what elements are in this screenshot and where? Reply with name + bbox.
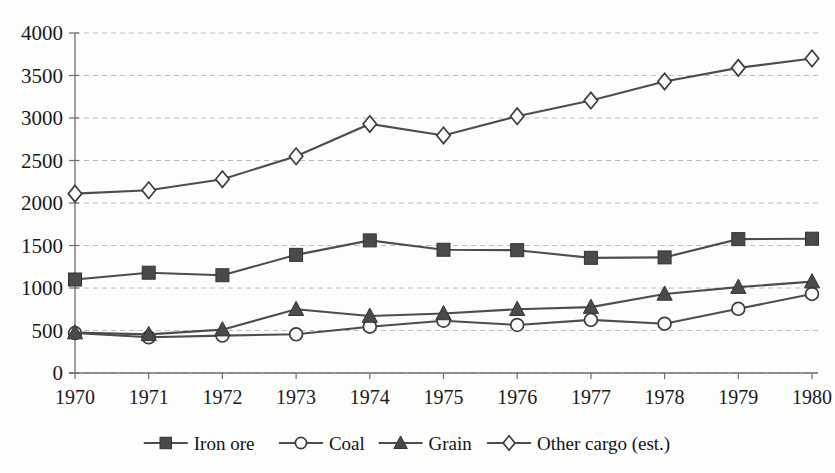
x-tick-label: 1972 — [202, 386, 242, 408]
x-tick-label: 1979 — [718, 386, 758, 408]
y-tick-label: 3500 — [21, 64, 63, 88]
y-tick-label: 0 — [53, 361, 64, 385]
legend-label: Iron ore — [194, 433, 255, 454]
y-tick-label: 2000 — [21, 191, 63, 215]
x-tick-label: 1980 — [792, 386, 832, 408]
x-tick-label: 1973 — [276, 386, 316, 408]
x-tick-label: 1970 — [55, 386, 95, 408]
data-point-marker — [584, 251, 597, 264]
data-point-marker — [216, 269, 229, 282]
y-tick-label: 3000 — [21, 106, 63, 130]
data-point-marker — [160, 437, 171, 448]
chart-background — [0, 0, 835, 473]
x-tick-label: 1971 — [129, 386, 169, 408]
y-tick-label: 500 — [32, 319, 64, 343]
data-point-marker — [732, 233, 745, 246]
data-point-marker — [363, 234, 376, 247]
x-tick-label: 1974 — [350, 386, 390, 408]
data-point-marker — [658, 251, 671, 264]
chart-canvas: 05001000150020002500300035004000 1970197… — [0, 0, 835, 473]
x-tick-label: 1976 — [497, 386, 537, 408]
legend-label: Grain — [429, 433, 473, 454]
data-point-marker — [806, 232, 819, 245]
data-point-marker — [69, 273, 82, 286]
data-point-marker — [142, 266, 155, 279]
y-tick-label: 1500 — [21, 234, 63, 258]
x-tick-label: 1975 — [424, 386, 464, 408]
data-point-marker — [732, 302, 745, 315]
data-point-marker — [511, 319, 524, 332]
y-tick-label: 4000 — [21, 21, 63, 45]
data-point-marker — [290, 328, 303, 341]
legend-label: Other cargo (est.) — [537, 433, 670, 455]
data-point-marker — [511, 244, 524, 257]
legend-label: Coal — [329, 433, 365, 454]
data-point-marker — [295, 437, 306, 448]
data-point-marker — [658, 317, 671, 330]
y-tick-label: 2500 — [21, 149, 63, 173]
data-point-marker — [585, 313, 598, 326]
x-tick-label: 1978 — [645, 386, 685, 408]
line-chart: 05001000150020002500300035004000 1970197… — [0, 0, 835, 473]
y-tick-label: 1000 — [21, 276, 63, 300]
data-point-marker — [437, 243, 450, 256]
data-point-marker — [806, 288, 819, 301]
x-tick-label: 1977 — [571, 386, 611, 408]
data-point-marker — [290, 248, 303, 261]
